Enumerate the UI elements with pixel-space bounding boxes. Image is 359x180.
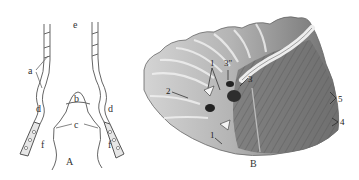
label-a: a — [28, 66, 32, 76]
panel-b-illustration: 1 2 3" 3 1 5 4 B — [130, 0, 359, 180]
label-2: 2 — [166, 86, 171, 96]
label-f-left: f — [41, 140, 44, 150]
panel-a-schematic: a b c d d e f f A — [0, 0, 130, 180]
label-c: c — [74, 120, 78, 130]
label-1-bottom: 1 — [210, 130, 215, 140]
label-5: 5 — [338, 94, 343, 104]
label-3: 3 — [248, 74, 253, 84]
label-3-double-prime: 3" — [224, 58, 232, 68]
label-e: e — [73, 20, 77, 30]
label-4: 4 — [340, 117, 345, 127]
label-b: b — [74, 94, 79, 104]
label-d-left: d — [36, 104, 41, 114]
label-d-right: d — [108, 104, 113, 114]
panel-b-drawing — [130, 0, 359, 180]
caption-b: B — [250, 158, 257, 169]
label-1-top: 1 — [210, 58, 215, 68]
panel-a-drawing — [0, 0, 130, 180]
label-f-right: f — [108, 140, 111, 150]
caption-a: A — [66, 156, 73, 167]
